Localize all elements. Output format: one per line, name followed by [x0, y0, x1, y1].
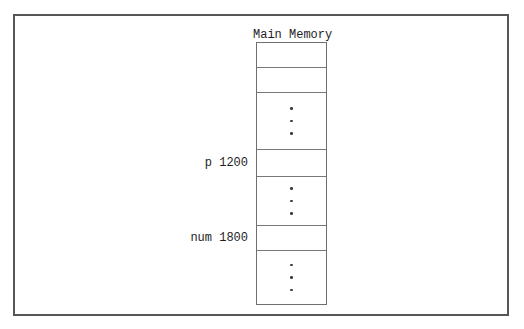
memory-cell-empty-2	[257, 68, 326, 93]
vertical-ellipsis-dot	[290, 212, 293, 215]
memory-cell-num	[257, 226, 326, 251]
vertical-ellipsis-dot	[290, 289, 293, 292]
vertical-ellipsis-dot	[290, 264, 293, 267]
figure-canvas: Main Memory p 1200 num 1800	[0, 0, 524, 329]
pointer-label-p: p 1200	[205, 156, 248, 170]
memory-cell-ellipsis-3	[257, 251, 326, 304]
vertical-ellipsis-dot	[290, 107, 293, 110]
vertical-ellipsis-dot	[290, 200, 293, 203]
memory-cell-empty-1	[257, 43, 326, 68]
memory-column	[256, 42, 327, 305]
vertical-ellipsis-dot	[290, 120, 293, 123]
vertical-ellipsis-dot	[290, 187, 293, 190]
memory-cell-ellipsis-1	[257, 93, 326, 150]
pointer-label-num: num 1800	[190, 231, 248, 245]
memory-cell-p	[257, 150, 326, 177]
memory-cell-ellipsis-2	[257, 177, 326, 226]
vertical-ellipsis-dot	[290, 132, 293, 135]
diagram-title: Main Memory	[253, 28, 332, 42]
vertical-ellipsis-dot	[290, 276, 293, 279]
